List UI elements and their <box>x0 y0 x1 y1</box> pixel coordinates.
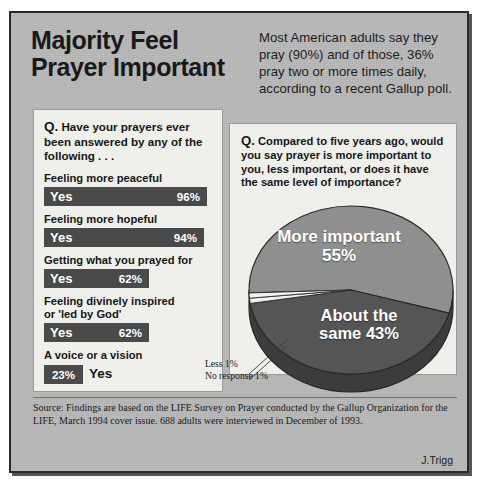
bar-series-label: Yes <box>50 271 72 286</box>
bar-item: A voice or a vision23%Yes <box>44 349 213 383</box>
pie-chart: More important 55% About the same 43% Le… <box>229 198 469 398</box>
question-text: Have your prayers ever been answered by … <box>44 120 203 162</box>
bar-item: Getting what you prayed forYes62% <box>44 254 213 288</box>
bar-row: Yes96% <box>44 187 213 206</box>
pie-callout-less: Less 1% <box>205 358 315 370</box>
bar-row: 23%Yes <box>44 365 213 384</box>
bar-series-label: Yes <box>50 325 72 340</box>
bar-label-line: Getting what you prayed for <box>44 254 213 267</box>
bar-row: Yes62% <box>44 323 213 342</box>
question-marker: Q. <box>241 133 255 148</box>
bar-label-line: Feeling more peaceful <box>44 172 213 185</box>
bar-item: Feeling more peacefulYes96% <box>44 172 213 206</box>
bar-label: Feeling more hopeful <box>44 213 213 226</box>
bar-label-line: or 'led by God' <box>44 308 213 321</box>
bar-label: Getting what you prayed for <box>44 254 213 267</box>
bar-label-line: A voice or a vision <box>44 349 213 362</box>
bar-label: Feeling divinely inspiredor 'led by God' <box>44 295 213 321</box>
bar-fill: Yes96% <box>44 187 207 206</box>
footer-divider <box>33 397 457 398</box>
bar-fill: Yes94% <box>44 228 204 247</box>
bar-item: Feeling divinely inspiredor 'led by God'… <box>44 295 213 342</box>
bar-label-line: Feeling more hopeful <box>44 213 213 226</box>
pie-label-more-important-line2: 55% <box>271 246 407 265</box>
artist-credit: J.Trigg <box>421 454 453 466</box>
bar-item: Feeling more hopefulYes94% <box>44 213 213 247</box>
pie-label-more-important-line1: More important <box>271 227 407 246</box>
bar-series-label: Yes <box>50 230 72 245</box>
bar-value-label: 62% <box>119 326 142 339</box>
bar-label: Feeling more peaceful <box>44 172 213 185</box>
bar-value-label: 23% <box>52 368 75 381</box>
bar-row: Yes62% <box>44 269 213 288</box>
bar-list: Feeling more peacefulYes96%Feeling more … <box>44 172 213 384</box>
pie-label-more-important: More important 55% <box>271 227 407 265</box>
question-text: Compared to five years ago, would you sa… <box>241 135 443 188</box>
bar-fill: Yes62% <box>44 269 149 288</box>
source-note: Source: Findings are based on the LIFE S… <box>33 402 453 427</box>
bar-series-label: Yes <box>50 189 72 204</box>
pie-label-about-the-same-line1: About the <box>291 306 427 324</box>
pie-label-about-the-same-line2: same 43% <box>291 324 427 342</box>
page-title: Majority Feel Prayer Important <box>31 27 246 81</box>
question-marker: Q. <box>44 119 58 134</box>
pie-callout-no-response: No response 1% <box>205 370 315 382</box>
bar-row: Yes94% <box>44 228 213 247</box>
bar-chart-panel: Q. Have your prayers ever been answered … <box>33 109 223 392</box>
bar-fill: Yes62% <box>44 323 149 342</box>
infographic-poster: Majority Feel Prayer Important Most Amer… <box>9 11 469 473</box>
pie-callout-labels: Less 1% No response 1% <box>205 358 315 381</box>
bar-value-label: 62% <box>119 272 142 285</box>
bar-series-label: Yes <box>89 366 112 381</box>
bar-fill: 23% <box>44 365 83 384</box>
bar-label-line: Feeling divinely inspired <box>44 295 213 308</box>
bar-label: A voice or a vision <box>44 349 213 362</box>
bar-value-label: 94% <box>174 231 197 244</box>
bar-value-label: 96% <box>177 190 200 203</box>
bar-chart-question: Q. Have your prayers ever been answered … <box>44 119 213 163</box>
pie-label-about-the-same: About the same 43% <box>291 306 427 343</box>
intro-paragraph: Most American adults say they pray (90%)… <box>259 30 457 98</box>
pie-chart-question: Q. Compared to five years ago, would you… <box>241 133 446 190</box>
